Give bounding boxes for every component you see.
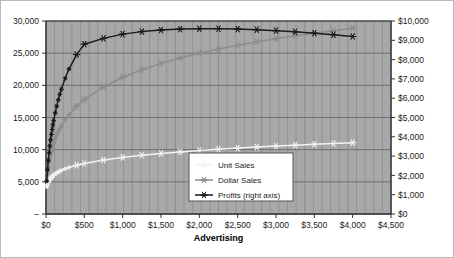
left-axis-tick-label: 30,000 xyxy=(13,16,39,26)
left-axis-tick-label: 10,000 xyxy=(13,145,39,155)
chart-legend: Unit SalesDollar SalesProfits (right axi… xyxy=(189,153,293,201)
x-axis-tick-label: $500 xyxy=(75,220,94,230)
right-axis-tick-label: $5,000 xyxy=(398,113,424,123)
right-axis-tick-label: $10,000 xyxy=(398,16,429,26)
x-axis-tick-label: $4,500 xyxy=(378,220,404,230)
left-value-axis: –5,00010,00015,00020,00025,00030,000 xyxy=(13,16,46,219)
legend-label: Unit Sales xyxy=(218,161,254,170)
right-value-axis: $0$1,000$2,000$3,000$4,000$5,000$6,000$7… xyxy=(391,16,429,219)
left-axis-tick-label: 25,000 xyxy=(13,48,39,58)
right-axis-tick-label: $2,000 xyxy=(398,171,424,181)
dual-axis-line-chart: –5,00010,00015,00020,00025,00030,000 $0$… xyxy=(1,1,454,258)
x-axis-tick-label: $4,000 xyxy=(340,220,366,230)
legend-label: Dollar Sales xyxy=(218,176,261,185)
left-axis-tick-label: 5,000 xyxy=(18,177,40,187)
right-axis-tick-label: $4,000 xyxy=(398,132,424,142)
right-axis-tick-label: $8,000 xyxy=(398,55,424,65)
left-axis-tick-label: 15,000 xyxy=(13,113,39,123)
left-axis-tick-label: – xyxy=(34,209,39,219)
right-axis-tick-label: $1,000 xyxy=(398,190,424,200)
legend-label: Profits (right axis) xyxy=(218,191,281,200)
x-axis-title: Advertising xyxy=(194,233,244,243)
x-axis-tick-label: $1,500 xyxy=(148,220,174,230)
x-axis-tick-label: $2,000 xyxy=(186,220,212,230)
right-axis-tick-label: $6,000 xyxy=(398,93,424,103)
category-axis: $0$500$1,000$1,500$2,000$2,500$3,000$3,5… xyxy=(41,214,404,230)
right-axis-tick-label: $0 xyxy=(398,209,408,219)
x-axis-tick-label: $0 xyxy=(41,220,51,230)
x-axis-tick-label: $2,500 xyxy=(225,220,251,230)
chart-container: –5,00010,00015,00020,00025,00030,000 $0$… xyxy=(0,0,454,258)
x-axis-tick-label: $3,000 xyxy=(263,220,289,230)
right-axis-tick-label: $7,000 xyxy=(398,74,424,84)
x-axis-tick-label: $3,500 xyxy=(301,220,327,230)
left-axis-tick-label: 20,000 xyxy=(13,80,39,90)
right-axis-tick-label: $9,000 xyxy=(398,35,424,45)
right-axis-tick-label: $3,000 xyxy=(398,151,424,161)
x-axis-tick-label: $1,000 xyxy=(110,220,136,230)
